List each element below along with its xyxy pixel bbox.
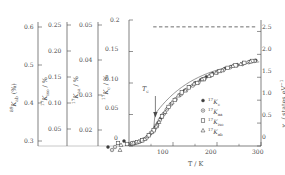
datapoint-17Kaa-25-dot: [254, 60, 255, 61]
datapoint-17Kiso-9: [180, 91, 184, 95]
datapoint-17Kiso-7: [167, 105, 171, 109]
stray-datapoint-3-dot: [115, 147, 116, 148]
datapoint-17Kiso-3: [147, 134, 151, 138]
legend-marker-1-dot: [203, 110, 204, 111]
stray-datapoint-6: [118, 148, 122, 152]
stray-datapoint-7: [107, 146, 110, 149]
datapoint-17Kiso-15: [226, 66, 230, 70]
stray-datapoint-4: [125, 142, 129, 146]
legend-marker-3: [201, 128, 205, 132]
datapoint-17Kaa-10-dot: [166, 109, 167, 110]
datapoint-17Kaa-4-dot: [146, 137, 147, 138]
legend-marker-2: [201, 119, 205, 123]
tc-arrow-head: [153, 112, 157, 118]
datapoint-17Kiso-8: [173, 98, 177, 102]
datapoint-17Kiso-6: [160, 115, 164, 119]
figure-root: 0.6 0.5 0.4 0.3 89Kab (%) 0.25 0.20 0.15…: [0, 0, 285, 175]
datapoint-17Kiso-17: [243, 61, 247, 64]
stray-datapoint-0: [116, 141, 120, 145]
plot-canvas: [0, 0, 285, 175]
legend-marker-0: [202, 99, 205, 102]
datapoint-17Kiso-11: [195, 81, 199, 85]
stray-datapoint-5-dot: [112, 150, 113, 151]
datapoint-17Kiso-10: [187, 86, 191, 90]
